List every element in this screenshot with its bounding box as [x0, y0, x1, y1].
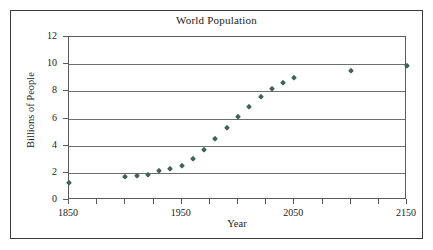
x-tick-mark: [350, 199, 351, 204]
x-tick-label: 2050: [273, 207, 313, 218]
x-tick-mark: [153, 199, 154, 204]
x-tick-mark: [322, 199, 323, 204]
x-tick-mark: [181, 199, 182, 204]
x-tick-mark: [378, 199, 379, 204]
x-tick-mark: [96, 199, 97, 204]
x-tick-mark: [68, 199, 69, 204]
x-tick-label: 2150: [386, 207, 426, 218]
x-tick-mark: [293, 199, 294, 204]
x-tick-mark: [265, 199, 266, 204]
x-tick-mark: [209, 199, 210, 204]
x-tick-mark: [124, 199, 125, 204]
x-tick-label: 1950: [161, 207, 201, 218]
x-tick-label: 1850: [48, 207, 88, 218]
chart-figure: World Population Billions of People Year…: [0, 0, 433, 250]
x-tick-mark: [237, 199, 238, 204]
x-axis-ticks: 1850195020502150: [0, 0, 433, 250]
x-tick-mark: [406, 199, 407, 204]
